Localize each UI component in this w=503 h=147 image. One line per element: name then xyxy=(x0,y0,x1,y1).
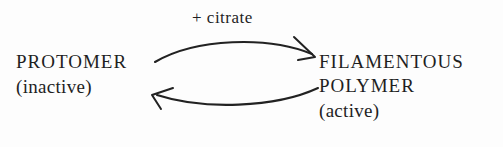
arrows-layer xyxy=(0,0,503,147)
forward-arrow-curve xyxy=(155,42,312,62)
reaction-diagram: PROTOMER (inactive) FILAMENTOUS POLYMER … xyxy=(0,0,503,147)
reverse-arrow-curve xyxy=(157,88,318,105)
reverse-arrow-icon xyxy=(152,88,318,109)
forward-arrow-icon xyxy=(155,37,315,62)
